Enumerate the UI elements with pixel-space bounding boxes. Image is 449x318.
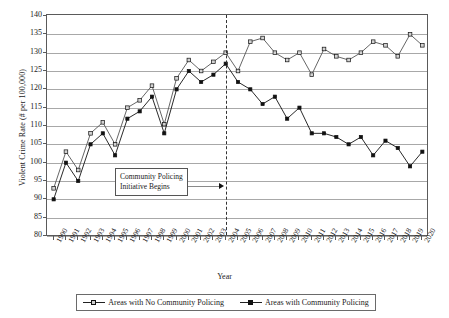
legend-line-open [83,302,105,303]
x-tick-mark [188,236,189,240]
legend-item-community-policing[interactable]: Areas with Community Policing [240,298,369,307]
x-tick-mark [384,236,385,240]
x-tick-label: 2006 [251,227,265,244]
x-tick-mark [90,236,91,240]
x-tick-mark [323,236,324,240]
x-tick-mark [114,236,115,240]
annotation-arrow-line [188,186,220,187]
chart-figure: Violent Crime Rate (# per 100,000) 14013… [0,0,449,318]
x-tick-mark [348,236,349,240]
x-tick-label: 1992 [79,227,93,244]
x-tick-label: 2003 [214,227,228,244]
annotation-arrow-head [219,183,224,189]
x-tick-mark [77,236,78,240]
x-tick-mark [286,236,287,240]
x-tick-label: 2000 [178,227,192,244]
x-tick-label: 2013 [337,227,351,244]
x-tick-mark [102,236,103,240]
x-tick-mark [372,236,373,240]
x-tick-mark [151,236,152,240]
x-tick-mark [200,236,201,240]
x-tick-label: 2014 [350,227,364,244]
x-tick-mark [397,236,398,240]
x-tick-mark [65,236,66,240]
x-tick-mark [360,236,361,240]
x-tick-mark [225,236,226,240]
x-axis-title: Year [0,272,449,281]
x-tick-mark [335,236,336,240]
x-tick-label: 1993 [92,227,106,244]
x-tick-mark [409,236,410,240]
x-tick-mark [249,236,250,240]
x-tick-label: 2017 [386,227,400,244]
x-tick-mark [139,236,140,240]
x-tick-label: 1996 [128,227,142,244]
open-square-marker-icon [91,300,96,305]
legend-label-community-policing: Areas with Community Policing [265,298,369,307]
legend-label-no-community-policing: Areas with No Community Policing [108,298,224,307]
x-tick-mark [421,236,422,240]
x-tick-mark [237,236,238,240]
x-tick-label: 2020 [423,227,437,244]
x-tick-mark [212,236,213,240]
x-tick-mark [274,236,275,240]
filled-square-marker-icon [248,300,253,305]
x-tick-mark [163,236,164,240]
legend-item-no-community-policing[interactable]: Areas with No Community Policing [83,298,224,307]
x-tick-label: 2007 [264,227,278,244]
x-axis-ticks: 1990199119921993199419951996199719981999… [0,0,449,318]
chart-legend: Areas with No Community Policing Areas w… [76,294,376,311]
x-tick-mark [176,236,177,240]
x-tick-label: 1999 [165,227,179,244]
annotation-community-policing: Community Policing Initiative Begins [115,168,188,196]
x-tick-mark [311,236,312,240]
x-tick-mark [126,236,127,240]
x-tick-mark [298,236,299,240]
x-tick-mark [262,236,263,240]
x-tick-label: 2010 [300,227,314,244]
x-tick-mark [53,236,54,240]
legend-line-filled [240,302,262,303]
